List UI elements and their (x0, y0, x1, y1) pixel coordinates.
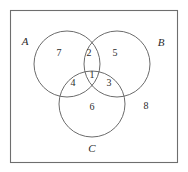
region-label-c-only: 6 (90, 101, 95, 112)
set-circle-b (84, 31, 150, 97)
region-label-b-only: 5 (113, 47, 118, 58)
set-label-b: B (158, 36, 165, 48)
set-circle-a (34, 31, 100, 97)
venn-diagram-canvas: A B C 7 2 5 1 4 3 6 8 (0, 0, 188, 172)
set-label-a: A (21, 35, 29, 47)
set-label-c: C (88, 142, 96, 154)
region-label-a-only: 7 (57, 47, 62, 58)
region-label-a-and-b: 2 (87, 47, 92, 58)
region-label-b-and-c: 3 (107, 77, 112, 88)
region-label-a-and-c: 4 (71, 77, 76, 88)
region-label-outside-all: 8 (144, 100, 149, 111)
region-label-a-b-c: 1 (90, 69, 95, 80)
universal-set-rectangle (11, 11, 178, 163)
venn-diagram-figure: A B C 7 2 5 1 4 3 6 8 (0, 0, 188, 172)
